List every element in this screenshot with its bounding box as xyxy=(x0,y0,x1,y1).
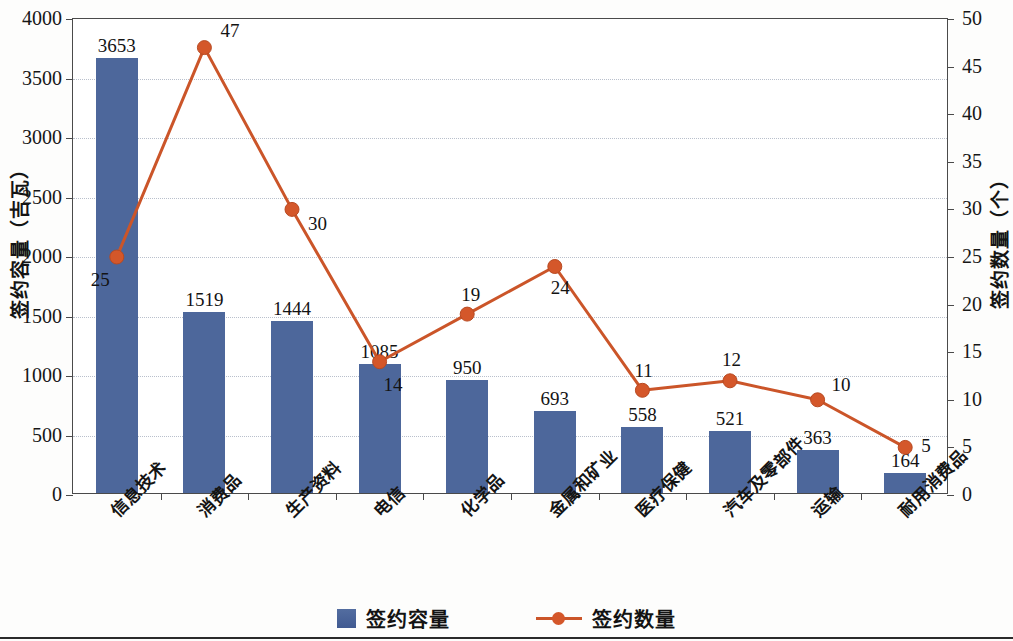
y-axis-right-tick-label: 15 xyxy=(962,341,1013,361)
legend-label: 签约容量 xyxy=(366,604,450,633)
y-axis-right-tickmark xyxy=(947,495,954,496)
line-value-label: 25 xyxy=(91,269,110,291)
line-value-label: 19 xyxy=(461,284,480,306)
y-axis-left-tick-label: 3000 xyxy=(0,127,62,147)
line-marker xyxy=(373,355,387,369)
y-axis-right-tick-label: 40 xyxy=(962,103,1013,123)
y-axis-left-tickmark xyxy=(66,198,73,199)
line-value-label: 14 xyxy=(384,374,403,396)
line-value-label: 24 xyxy=(551,277,570,299)
chart-container: 签约容量（吉瓦） 签约数量（个） 05001000150020002500300… xyxy=(0,0,1013,641)
y-axis-left-tickmark xyxy=(66,495,73,496)
legend-item[interactable]: 签约容量 xyxy=(337,604,450,633)
y-axis-left-tick-label: 0 xyxy=(0,484,62,504)
line-marker xyxy=(898,440,912,454)
line-marker xyxy=(460,307,474,321)
chart-legend: 签约容量签约数量 xyxy=(0,604,1013,633)
legend-label: 签约数量 xyxy=(592,604,676,633)
square-swatch-icon xyxy=(337,609,356,628)
y-axis-left-tickmark xyxy=(66,19,73,20)
y-axis-left-tick-label: 500 xyxy=(0,425,62,445)
line-marker-icon xyxy=(536,609,582,628)
line-marker xyxy=(197,41,211,55)
line-marker xyxy=(635,383,649,397)
y-axis-right-tick-label: 0 xyxy=(962,484,1013,504)
line-marker xyxy=(285,202,299,216)
y-axis-left-tick-label: 2000 xyxy=(0,246,62,266)
y-axis-left-tick-label: 2500 xyxy=(0,187,62,207)
y-axis-right-tick-label: 10 xyxy=(962,389,1013,409)
y-axis-left-tick-label: 3500 xyxy=(0,68,62,88)
y-axis-right-tick-label: 25 xyxy=(962,246,1013,266)
line-value-label: 12 xyxy=(722,349,741,371)
y-axis-left-tickmark xyxy=(66,79,73,80)
line-marker xyxy=(811,393,825,407)
line-path xyxy=(117,48,905,448)
y-axis-right-tick-label: 45 xyxy=(962,56,1013,76)
y-axis-left-tickmark xyxy=(66,436,73,437)
y-axis-right-tick-label: 30 xyxy=(962,198,1013,218)
y-axis-left-tick-label: 4000 xyxy=(0,8,62,28)
page-bottom-rule xyxy=(0,637,1013,639)
y-axis-left-tickmark xyxy=(66,376,73,377)
plot-area: 3653151914441085950693558521363164 25473… xyxy=(72,18,948,494)
line-marker xyxy=(723,374,737,388)
legend-item[interactable]: 签约数量 xyxy=(536,604,676,633)
line-value-label: 5 xyxy=(921,435,931,457)
y-axis-right-tick-label: 50 xyxy=(962,8,1013,28)
y-axis-right-tick-label: 5 xyxy=(962,436,1013,456)
y-axis-left-tickmark xyxy=(66,257,73,258)
y-axis-left-tickmark xyxy=(66,317,73,318)
line-marker xyxy=(110,250,124,264)
y-axis-left-tick-label: 1500 xyxy=(0,306,62,326)
line-marker xyxy=(548,260,562,274)
y-axis-left-tickmark xyxy=(66,138,73,139)
line-value-label: 47 xyxy=(220,20,239,42)
line-value-label: 30 xyxy=(308,213,327,235)
y-axis-right-tick-label: 35 xyxy=(962,151,1013,171)
line-value-label: 11 xyxy=(634,360,652,382)
line-value-label: 10 xyxy=(832,374,851,396)
line-series xyxy=(73,19,949,495)
y-axis-left-tick-label: 1000 xyxy=(0,365,62,385)
y-axis-right-tick-label: 20 xyxy=(962,294,1013,314)
